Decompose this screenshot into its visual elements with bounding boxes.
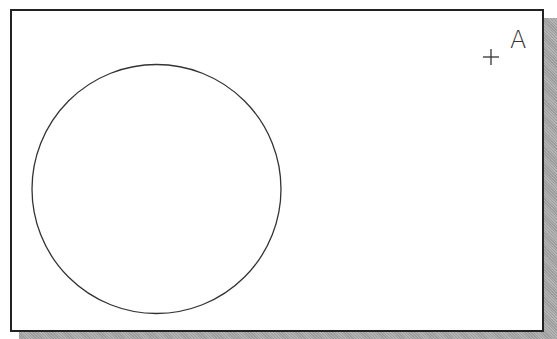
circle-shape[interactable]: [32, 65, 281, 314]
point-label-a: A: [510, 26, 526, 54]
drawing-canvas: [0, 0, 557, 339]
crosshair-point-icon[interactable]: [483, 49, 499, 65]
